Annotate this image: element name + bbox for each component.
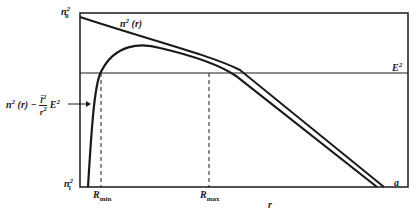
effective-potential-label: n2 (r) − l̄2r2 E2 (6, 94, 60, 118)
n1-squared-label: n21 (64, 178, 72, 192)
energy-label: E2 (392, 62, 402, 73)
n0-squared-label: n20 (61, 6, 69, 20)
x-axis-label: r (268, 200, 272, 210)
plot-frame (80, 13, 408, 187)
n2-curve (80, 17, 384, 187)
end-label-a: a (394, 178, 399, 188)
diagram-canvas (0, 0, 416, 215)
rmin-label: Rmin (93, 190, 111, 203)
n2-curve-label: n2 (r) (120, 18, 142, 29)
arrow-head-icon (86, 101, 91, 107)
rmax-label: Rmax (200, 190, 220, 203)
